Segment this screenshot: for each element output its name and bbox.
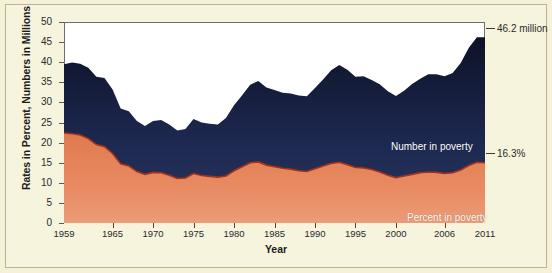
x-axis-title: Year: [0, 243, 552, 255]
chart-areas: [64, 22, 485, 223]
callout-percent-in-poverty: 16.3%: [497, 148, 525, 159]
poverty-chart-figure: Rates in Percent, Numbers in Millions N: [0, 0, 552, 273]
plot-area: Number in poverty Percent in poverty: [64, 22, 485, 223]
callout-leader-percent: [486, 153, 495, 154]
y-axis-title: Rates in Percent, Numbers in Millions: [20, 0, 32, 208]
series-label-number-in-poverty: Number in poverty: [391, 141, 473, 152]
series-label-percent-in-poverty: Percent in poverty: [407, 212, 488, 223]
callout-leader-number: [486, 28, 495, 29]
callout-number-in-poverty: 46.2 million: [497, 23, 548, 34]
